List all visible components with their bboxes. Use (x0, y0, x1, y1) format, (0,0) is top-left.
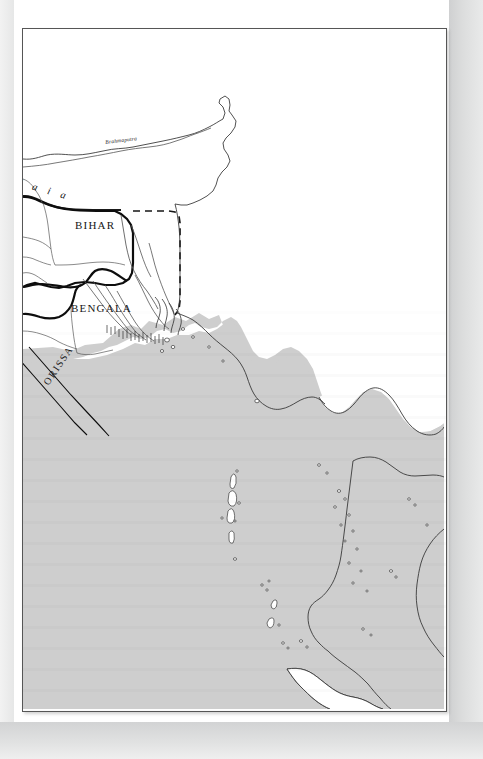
scanned-page: Brahmaputra l a i a BIHAR BENGALA ORISSA (0, 0, 483, 759)
page-margin-bottom (0, 722, 483, 759)
page-margin-top (0, 0, 483, 12)
map-illustration (23, 29, 444, 709)
province-label-bengala: BENGALA (71, 302, 132, 314)
map-frame: Brahmaputra l a i a BIHAR BENGALA ORISSA (22, 28, 447, 712)
page-margin-right (449, 0, 483, 759)
province-label-bihar: BIHAR (75, 219, 115, 231)
page-margin-left (0, 0, 14, 759)
